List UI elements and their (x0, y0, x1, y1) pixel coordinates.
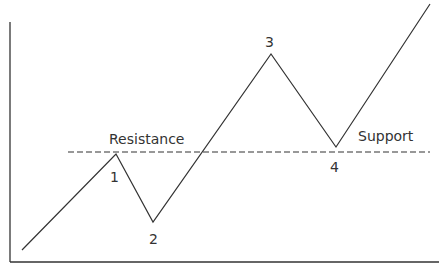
price-line (22, 4, 430, 250)
support-label: Support (358, 128, 414, 144)
support-resistance-diagram: Resistance Support 1 2 3 4 (0, 0, 439, 269)
point-3-label: 3 (265, 34, 274, 50)
point-4-label: 4 (330, 159, 339, 175)
point-2-label: 2 (149, 231, 158, 247)
resistance-label: Resistance (109, 131, 184, 147)
point-1-label: 1 (110, 169, 119, 185)
